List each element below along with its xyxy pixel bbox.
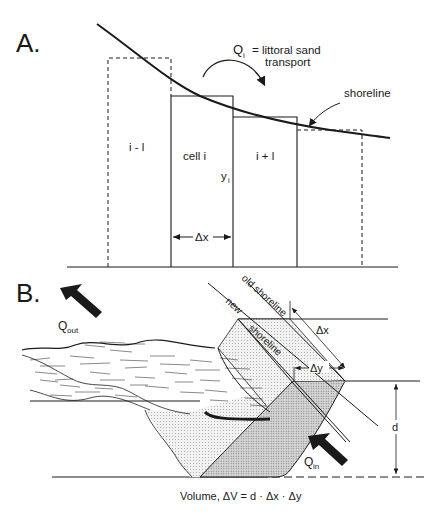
cell-i-plus-1-box [233, 117, 297, 267]
shoreline-curve [97, 24, 390, 138]
new-label: new [224, 295, 246, 316]
old-shoreline-label: old shoreline [240, 272, 290, 318]
cell-i-plus-2-box [297, 130, 362, 267]
y-label: y [221, 170, 227, 182]
volume-formula: Volume, ΔV = d · Δx · Δy [180, 490, 302, 502]
dy-label-b: Δy [310, 362, 323, 374]
panel-b: B. [16, 272, 424, 502]
shoreline-pointer-icon [310, 103, 340, 125]
cell-label-i: cell i [183, 150, 206, 162]
shoreline-label: shoreline [344, 87, 391, 99]
q-out-sub: out [67, 326, 79, 335]
q-text-2: transport [265, 56, 311, 68]
cell-i-minus-1-box [108, 58, 171, 267]
y-sub: i [228, 176, 230, 185]
q-text-1: = littoral sand [252, 44, 321, 56]
d-label: d [392, 421, 398, 433]
cell-label-i-plus-1: i + l [256, 150, 274, 162]
q-sub: i [243, 51, 245, 60]
transport-arrow-icon [203, 60, 264, 84]
dx-label-b: Δx [316, 324, 329, 336]
figure-canvas: A. Q i = littoral sand transport shoreli… [0, 0, 434, 515]
panel-b-label: B. [16, 278, 41, 308]
q-out-label: Q [58, 319, 67, 333]
q-in-label: Q [304, 455, 313, 469]
panel-a: A. Q i = littoral sand transport shoreli… [16, 24, 398, 267]
q-out-arrow-icon [60, 284, 102, 318]
panel-a-label: A. [16, 28, 41, 58]
q-label: Q [233, 42, 243, 57]
q-in-sub: in [313, 462, 319, 471]
cell-label-i-minus-1: i - l [129, 141, 144, 153]
dx-label: Δx [195, 231, 209, 243]
